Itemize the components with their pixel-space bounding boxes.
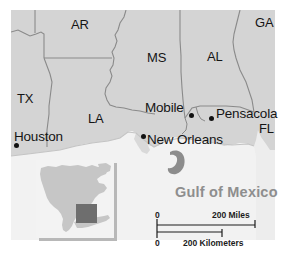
city-label-houston: Houston	[14, 130, 63, 144]
water-body-label-gulf-of-mexico: Gulf of Mexico	[175, 184, 278, 200]
state-label-ar: AR	[71, 18, 89, 31]
city-label-mobile: Mobile	[145, 101, 184, 115]
scale-miles-max-label: 200 Miles	[212, 210, 250, 220]
city-label-pensacola: Pensacola	[216, 107, 277, 121]
state-label-fl: FL	[259, 122, 274, 135]
state-label-ms: MS	[147, 51, 166, 64]
state-label-tx: TX	[17, 92, 33, 105]
map-figure: AR GA MS AL TX LA FL Mobile Pensacola Ne…	[0, 0, 286, 254]
state-label-la: LA	[88, 112, 104, 125]
inset-highlight-box	[76, 204, 97, 223]
city-dot-pensacola	[209, 116, 214, 121]
scale-km-zero-label: 0	[155, 238, 160, 248]
state-label-ga: GA	[255, 16, 273, 29]
city-dot-mobile	[189, 113, 194, 118]
state-label-al: AL	[207, 50, 223, 63]
scale-miles-zero-label: 0	[155, 210, 160, 220]
scale-km-max-label: 200 Kilometers	[183, 238, 243, 248]
city-label-new-orleans: New Orleans	[147, 133, 223, 147]
inset-locator-map	[36, 160, 117, 241]
city-dot-houston	[14, 143, 19, 148]
city-dot-new-orleans	[141, 134, 146, 139]
